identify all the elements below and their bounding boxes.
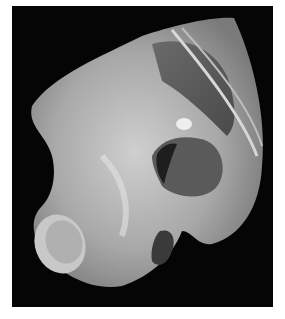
specimen-photo [12,6,273,307]
photo-frame [12,6,273,307]
